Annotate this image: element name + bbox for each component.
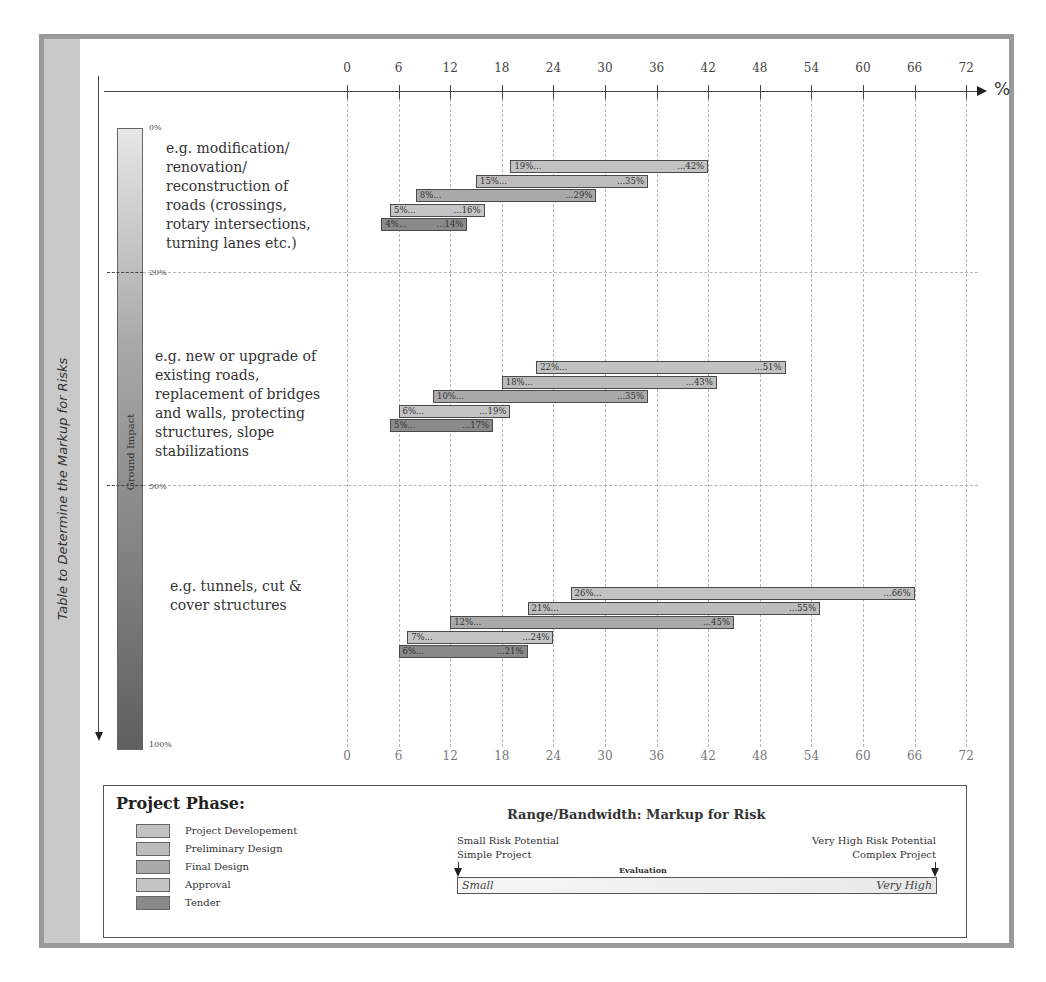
x-gridline: [347, 99, 348, 747]
x-axis-arrow-icon: [977, 86, 987, 96]
bar-high-value: ...66%: [884, 588, 911, 599]
chart-frame: Table to Determine the Markup for Risks …: [39, 34, 1014, 948]
x-tick-label-bottom: 0: [343, 749, 351, 763]
bar-high-value: ...16%: [454, 205, 481, 216]
legend-swatch: [136, 896, 170, 910]
side-title: Table to Determine the Markup for Risks: [55, 358, 70, 621]
bar-high-value: ...43%: [686, 377, 713, 388]
bar-high-value: ...29%: [565, 190, 592, 201]
x-tick-label-bottom: 60: [855, 749, 870, 763]
category-line: roads (crossings,: [166, 196, 311, 215]
range-bar-final-design: 8%......29%: [416, 189, 597, 202]
ground-impact-mark: 20%: [149, 268, 167, 277]
small-risk-label: Small Risk Potential: [457, 834, 559, 848]
category-label: e.g. modification/renovation/reconstruct…: [166, 139, 311, 253]
x-tick-label-bottom: 42: [701, 749, 716, 763]
range-bar-tender: 6%......21%: [399, 645, 528, 658]
x-tick-mark: [708, 85, 709, 99]
separator-20: [143, 272, 978, 273]
category-line: and walls, protecting: [155, 404, 320, 423]
bar-high-value: ...45%: [703, 617, 730, 628]
scale-low-label: Small: [462, 879, 494, 892]
category-label: e.g. tunnels, cut &cover structures: [170, 577, 302, 615]
range-bar-approval: 7%......24%: [407, 631, 553, 644]
very-high-risk-label: Very High Risk Potential: [812, 834, 936, 848]
legend-label: Tender: [185, 896, 220, 909]
ground-impact-mark: 100%: [149, 740, 172, 749]
bar-low-value: 8%...: [420, 190, 442, 201]
x-tick-label-top: 54: [804, 61, 819, 75]
x-tick-label-bottom: 18: [494, 749, 509, 763]
x-tick-label-bottom: 72: [959, 749, 974, 763]
legend-swatch: [136, 824, 170, 838]
ground-impact-label: Ground Impact: [125, 414, 136, 491]
x-tick-label-top: 42: [701, 61, 716, 75]
bar-low-value: 22%...: [540, 362, 567, 373]
x-tick-label-top: 6: [395, 61, 403, 75]
range-bar-preliminary-design: 21%......55%: [528, 602, 820, 615]
category-line: stabilizations: [155, 442, 320, 461]
x-tick-mark: [399, 85, 400, 99]
x-tick-label-bottom: 36: [649, 749, 664, 763]
category-line: reconstruction of: [166, 177, 311, 196]
range-bar-preliminary-design: 15%......35%: [476, 175, 648, 188]
bar-high-value: ...55%: [789, 603, 816, 614]
x-tick-label-bottom: 48: [752, 749, 767, 763]
bar-low-value: 18%...: [506, 377, 533, 388]
range-bar-approval: 5%......16%: [390, 204, 485, 217]
right-down-arrow-icon: [931, 868, 939, 877]
x-tick-label-bottom: 30: [597, 749, 612, 763]
bar-low-value: 4%...: [385, 219, 407, 230]
bar-high-value: ...35%: [617, 176, 644, 187]
x-gridline: [863, 99, 864, 747]
x-tick-mark: [502, 85, 503, 99]
category-line: existing roads,: [155, 366, 320, 385]
category-line: renovation/: [166, 158, 311, 177]
bar-low-value: 6%...: [403, 646, 425, 657]
bar-low-value: 5%...: [394, 420, 416, 431]
x-tick-label-top: 66: [907, 61, 922, 75]
x-tick-label-bottom: 66: [907, 749, 922, 763]
legend-label: Project Developement: [185, 824, 297, 837]
bar-low-value: 7%...: [411, 632, 433, 643]
scale-high-label: Very High: [876, 879, 932, 892]
y-axis-line: [98, 76, 99, 736]
legend-label: Preliminary Design: [185, 842, 283, 855]
bar-low-value: 21%...: [532, 603, 559, 614]
legend-swatch: [136, 842, 170, 856]
high-risk-note: Very High Risk Potential Complex Project: [812, 834, 936, 862]
x-tick-mark: [657, 85, 658, 99]
range-bar-approval: 6%......19%: [399, 405, 511, 418]
legend-swatch: [136, 878, 170, 892]
y-axis-arrow-icon: [95, 732, 103, 741]
legend-title: Project Phase:: [116, 794, 245, 813]
legend-swatch: [136, 860, 170, 874]
x-tick-label-top: 72: [959, 61, 974, 75]
bar-low-value: 15%...: [480, 176, 507, 187]
legend-label: Approval: [185, 878, 231, 891]
legend-box: Project Phase: Project DevelopementPreli…: [103, 785, 967, 938]
category-line: cover structures: [170, 596, 302, 615]
range-bar-preliminary-design: 18%......43%: [502, 376, 717, 389]
complex-project-label: Complex Project: [812, 848, 936, 862]
bar-high-value: ...17%: [462, 420, 489, 431]
category-line: e.g. tunnels, cut &: [170, 577, 302, 596]
x-tick-label-top: 0: [343, 61, 351, 75]
range-bar-project-developement: 22%......51%: [536, 361, 785, 374]
bar-low-value: 6%...: [403, 406, 425, 417]
bar-low-value: 5%...: [394, 205, 416, 216]
x-gridline: [708, 99, 709, 747]
x-tick-label-bottom: 6: [395, 749, 403, 763]
x-tick-label-top: 30: [597, 61, 612, 75]
range-bar-project-developement: 19%......42%: [510, 160, 708, 173]
range-bar-project-developement: 26%......66%: [571, 587, 915, 600]
x-gridline: [760, 99, 761, 747]
x-tick-mark: [915, 85, 916, 99]
category-line: structures, slope: [155, 423, 320, 442]
x-tick-label-top: 48: [752, 61, 767, 75]
x-gridline: [605, 99, 606, 747]
range-bar-final-design: 12%......45%: [450, 616, 734, 629]
x-tick-mark: [863, 85, 864, 99]
category-line: replacement of bridges: [155, 385, 320, 404]
evaluation-scale: Small Very High: [457, 877, 937, 894]
